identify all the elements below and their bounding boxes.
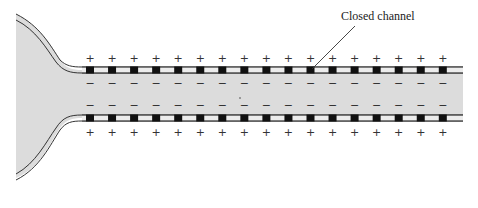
- minus-sign-inside-bottom: −: [129, 99, 138, 112]
- minus-sign-inside-bottom: −: [328, 99, 337, 112]
- closed-channel: [395, 115, 403, 122]
- closed-channel: [130, 115, 138, 122]
- minus-sign-inside-bottom: −: [85, 99, 94, 112]
- minus-sign-inside-bottom: −: [174, 99, 183, 112]
- plus-sign-outside-bottom: +: [350, 126, 359, 139]
- plus-sign-outside-bottom: +: [394, 126, 403, 139]
- speck: [239, 97, 241, 99]
- closed-channel: [196, 67, 204, 74]
- closed-channel: [284, 115, 292, 122]
- minus-sign-inside-bottom: −: [416, 99, 425, 112]
- minus-sign-inside-top: −: [306, 77, 315, 90]
- minus-sign-inside-bottom: −: [284, 99, 293, 112]
- closed-channel: [307, 115, 315, 122]
- plus-sign-outside-bottom: +: [174, 126, 183, 139]
- minus-sign-inside-bottom: −: [438, 99, 447, 112]
- plus-sign-outside-top: +: [240, 52, 249, 65]
- plus-sign-outside-bottom: +: [240, 126, 249, 139]
- closed-channel: [439, 67, 447, 74]
- minus-sign-inside-top: −: [129, 77, 138, 90]
- closed-channel: [284, 67, 292, 74]
- closed-channel: [152, 115, 160, 122]
- plus-sign-outside-top: +: [107, 52, 116, 65]
- closed-channel: [174, 115, 182, 122]
- closed-channel: [86, 67, 94, 74]
- minus-sign-inside-bottom: −: [306, 99, 315, 112]
- plus-sign-outside-top: +: [306, 52, 315, 65]
- plus-sign-outside-bottom: +: [196, 126, 205, 139]
- closed-channel: [329, 67, 337, 74]
- closed-channel: [417, 115, 425, 122]
- minus-sign-inside-top: −: [85, 77, 94, 90]
- upper-membrane-inner: [16, 20, 463, 73]
- closed-channel: [152, 67, 160, 74]
- minus-sign-inside-top: −: [107, 77, 116, 90]
- closed-channel: [329, 115, 337, 122]
- plus-sign-outside-bottom: +: [372, 126, 381, 139]
- plus-sign-outside-bottom: +: [129, 126, 138, 139]
- closed-channel: [86, 115, 94, 122]
- minus-sign-inside-top: −: [262, 77, 271, 90]
- closed-channel: [196, 115, 204, 122]
- plus-sign-outside-top: +: [218, 52, 227, 65]
- lower-membrane-band: [82, 116, 463, 121]
- plus-sign-outside-top: +: [350, 52, 359, 65]
- plus-sign-outside-bottom: +: [85, 126, 94, 139]
- closed-channel: [395, 67, 403, 74]
- plus-sign-outside-top: +: [196, 52, 205, 65]
- plus-sign-outside-bottom: +: [306, 126, 315, 139]
- closed-channel-label: Closed channel: [341, 9, 415, 24]
- plus-sign-outside-top: +: [85, 52, 94, 65]
- plus-sign-outside-bottom: +: [416, 126, 425, 139]
- closed-channel: [218, 67, 226, 74]
- upper-membrane-band: [82, 68, 463, 73]
- plus-sign-outside-top: +: [372, 52, 381, 65]
- minus-sign-inside-top: −: [196, 77, 205, 90]
- plus-sign-outside-top: +: [129, 52, 138, 65]
- lower-membrane-inner: [16, 115, 463, 174]
- closed-channel: [262, 115, 270, 122]
- minus-sign-inside-top: −: [394, 77, 403, 90]
- closed-channel: [108, 67, 116, 74]
- plus-sign-outside-top: +: [394, 52, 403, 65]
- minus-sign-inside-bottom: −: [196, 99, 205, 112]
- minus-sign-inside-top: −: [240, 77, 249, 90]
- minus-sign-inside-bottom: −: [350, 99, 359, 112]
- plus-sign-outside-top: +: [416, 52, 425, 65]
- axon-diagram: ++−−++−−++−−++−−++−−++−−++−−++−−++−−++−−…: [0, 0, 478, 208]
- minus-sign-inside-bottom: −: [262, 99, 271, 112]
- minus-sign-inside-top: −: [284, 77, 293, 90]
- minus-sign-inside-bottom: −: [372, 99, 381, 112]
- minus-sign-inside-top: −: [416, 77, 425, 90]
- minus-sign-inside-top: −: [438, 77, 447, 90]
- plus-sign-outside-top: +: [174, 52, 183, 65]
- closed-channel: [262, 67, 270, 74]
- closed-channel: [240, 67, 248, 74]
- closed-channel: [417, 67, 425, 74]
- closed-channel: [373, 67, 381, 74]
- closed-channel: [351, 67, 359, 74]
- closed-channel: [108, 115, 116, 122]
- minus-sign-inside-bottom: −: [394, 99, 403, 112]
- cytoplasm: [16, 14, 463, 178]
- minus-sign-inside-top: −: [174, 77, 183, 90]
- plus-sign-outside-bottom: +: [262, 126, 271, 139]
- closed-channel: [130, 67, 138, 74]
- plus-sign-outside-top: +: [262, 52, 271, 65]
- minus-sign-inside-top: −: [372, 77, 381, 90]
- closed-channel: [240, 115, 248, 122]
- plus-sign-outside-bottom: +: [328, 126, 337, 139]
- minus-sign-inside-bottom: −: [152, 99, 161, 112]
- plus-sign-outside-bottom: +: [152, 126, 161, 139]
- closed-channel: [218, 115, 226, 122]
- closed-channel: [351, 115, 359, 122]
- plus-sign-outside-top: +: [284, 52, 293, 65]
- minus-sign-inside-bottom: −: [240, 99, 249, 112]
- plus-sign-outside-bottom: +: [438, 126, 447, 139]
- minus-sign-inside-top: −: [328, 77, 337, 90]
- plus-sign-outside-top: +: [328, 52, 337, 65]
- closed-channel: [373, 115, 381, 122]
- minus-sign-inside-bottom: −: [218, 99, 227, 112]
- minus-sign-inside-top: −: [152, 77, 161, 90]
- closed-channel: [439, 115, 447, 122]
